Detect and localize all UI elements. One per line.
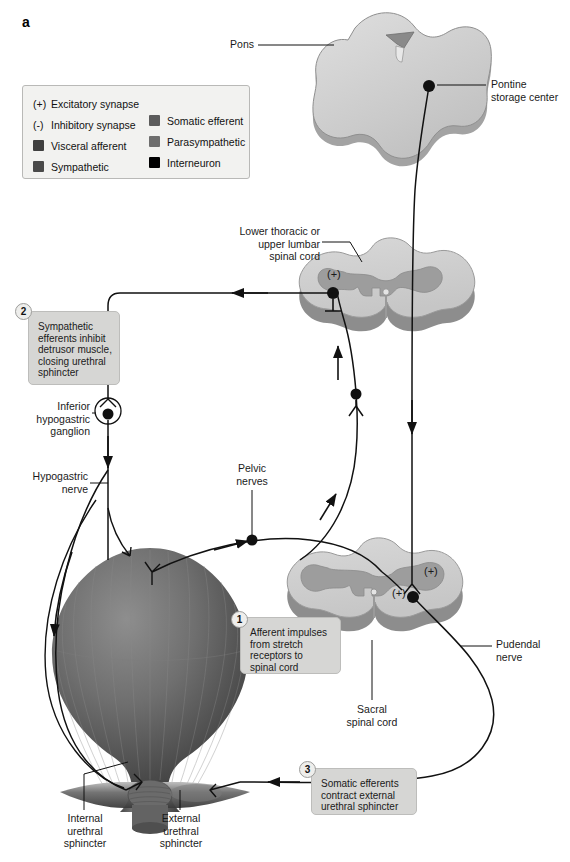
- legend-label: Sympathetic: [51, 161, 109, 173]
- label-sacral-spinal-cord: Sacral spinal cord: [335, 703, 409, 728]
- callout-text-1: Afferent impulses from stretch receptors…: [240, 617, 341, 674]
- legend-item-inhibitory: (-) Inhibitory synapse: [33, 115, 139, 134]
- label-pontine-storage-center: Pontine storage center: [491, 78, 569, 103]
- panel-letter: a: [22, 14, 30, 30]
- bladder: [52, 548, 250, 834]
- pons-structure: [313, 13, 491, 167]
- legend-item-sympathetic: Sympathetic: [33, 157, 139, 176]
- label-inferior-hypogastric-ganglion: Inferior hypogastric ganglion: [20, 400, 90, 438]
- callout-number-1: 1: [231, 611, 248, 628]
- label-internal-urethral-sphincter: Internal urethral sphincter: [50, 812, 120, 850]
- legend-label: Excitatory synapse: [51, 98, 139, 110]
- legend-label: Inhibitory synapse: [51, 119, 136, 131]
- figure-urinary-storage-reflex: a (+) Excitatory synapse (-) Inhibitory …: [0, 0, 570, 862]
- synapse-sign-sacral-upper: (+): [424, 565, 438, 578]
- label-external-urethral-sphincter: External urethral sphincter: [146, 812, 216, 850]
- label-pons: Pons: [196, 38, 254, 51]
- parasympathetic-swatch: [149, 136, 160, 147]
- legend-item-parasympathetic: Parasympathetic: [149, 132, 245, 151]
- label-pelvic-nerves: Pelvic nerves: [222, 462, 282, 487]
- inhibitory-symbol: (-): [33, 119, 51, 131]
- sympathetic-swatch: [33, 161, 44, 172]
- visceral-afferent-swatch: [33, 140, 44, 151]
- ascending-afferent-to-thoracic: [300, 292, 363, 560]
- somatic-efferent-swatch: [149, 115, 160, 126]
- hypogastric-ganglion-node: [103, 409, 114, 420]
- legend-label: Visceral afferent: [51, 140, 127, 152]
- callout-text-3: Somatic efferents contract external uret…: [311, 768, 417, 815]
- legend-item-visceral-afferent: Visceral afferent: [33, 136, 139, 155]
- legend-label: Interneuron: [167, 157, 221, 169]
- label-lower-thoracic-spinal-cord: Lower thoracic or upper lumbar spinal co…: [190, 225, 320, 263]
- legend-box: (+) Excitatory synapse (-) Inhibitory sy…: [22, 85, 250, 179]
- label-hypogastric-nerve: Hypogastric nerve: [12, 470, 88, 495]
- synapse-sign-thoracic: (+): [327, 268, 341, 281]
- callout-number-3: 3: [299, 761, 316, 778]
- thoracic-lumbar-cord: [299, 238, 475, 331]
- legend-item-excitatory: (+) Excitatory synapse: [33, 94, 139, 113]
- pontine-storage-center-node: [423, 80, 435, 92]
- legend-label: Parasympathetic: [167, 136, 245, 148]
- excitatory-symbol: (+): [33, 98, 51, 110]
- callout-text-2: Sympathetic efferents inhibit detrusor m…: [28, 311, 120, 385]
- label-pudendal-nerve: Pudendal nerve: [496, 638, 560, 663]
- legend-label: Somatic efferent: [167, 115, 243, 127]
- synapse-sign-sacral-lower: (+): [392, 587, 406, 600]
- legend-item-somatic-efferent: Somatic efferent: [149, 111, 245, 130]
- legend-column-left: (+) Excitatory synapse (-) Inhibitory sy…: [33, 94, 139, 178]
- legend-item-interneuron: Interneuron: [149, 153, 245, 172]
- interneuron-swatch: [149, 157, 160, 168]
- legend-column-right: Somatic efferent Parasympathetic Interne…: [149, 111, 245, 174]
- pelvic-nerve-node: [247, 535, 258, 546]
- callout-number-2: 2: [15, 303, 32, 320]
